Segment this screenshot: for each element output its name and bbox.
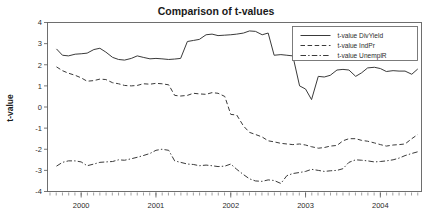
- chart-legend: t-value DivYieldt-value IndPrt-value Une…: [293, 27, 418, 61]
- y-tick-label: 2: [38, 61, 42, 70]
- legend-label-0: t-value DivYield: [338, 32, 384, 39]
- y-tick-label: 3: [38, 39, 42, 48]
- y-tick-label: -3: [35, 166, 42, 175]
- y-tick-label: 4: [38, 18, 42, 27]
- y-tick-label: 0: [38, 103, 42, 112]
- x-tick-label: 2002: [222, 201, 239, 210]
- legend-label-2: t-value UnemplR: [338, 52, 387, 60]
- y-tick-label: -4: [35, 187, 42, 196]
- x-tick-label: 2000: [73, 201, 90, 210]
- x-tick-label: 2001: [148, 201, 165, 210]
- legend-label-1: t-value IndPr: [338, 42, 376, 49]
- y-tick-label: -2: [35, 145, 42, 154]
- y-tick-label: 1: [38, 82, 42, 91]
- t-values-line-chart: Comparison of t-values t-value 43210-1-2…: [0, 0, 432, 224]
- y-tick-label: -1: [35, 124, 42, 133]
- x-tick-label: 2003: [297, 201, 314, 210]
- y-axis-label: t-value: [5, 94, 15, 122]
- x-tick-label: 2004: [372, 201, 389, 210]
- chart-title: Comparison of t-values: [158, 5, 275, 17]
- chart-container: Comparison of t-values t-value 43210-1-2…: [0, 0, 432, 224]
